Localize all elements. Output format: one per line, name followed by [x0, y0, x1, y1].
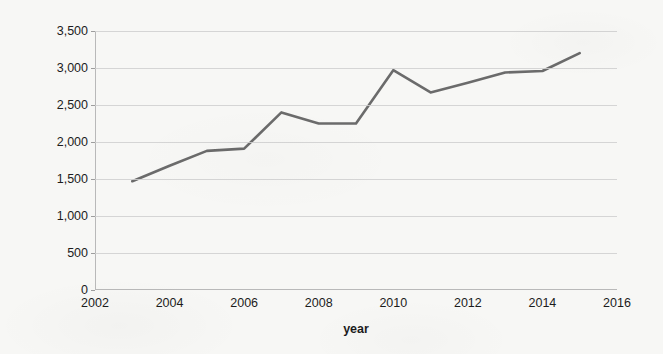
- x-axis-tick-label: 2004: [135, 296, 205, 310]
- y-axis-tick-label: 1,500: [42, 172, 88, 186]
- gridline: [95, 105, 617, 106]
- y-axis-tick-mark: [91, 216, 95, 217]
- x-axis-tick-label: 2010: [358, 296, 428, 310]
- y-axis-tick-label: 2,000: [42, 135, 88, 149]
- x-axis-tick-label: 2014: [507, 296, 577, 310]
- y-axis-tick-label: 3,000: [42, 61, 88, 75]
- line-chart: Cases where elderly people died alone 05…: [0, 0, 663, 354]
- x-axis-tick-label: 2006: [209, 296, 279, 310]
- gridline: [95, 31, 617, 32]
- y-axis-tick-mark: [91, 290, 95, 291]
- gridline: [95, 216, 617, 217]
- x-axis-title: year: [95, 322, 617, 336]
- y-axis-tick-mark: [91, 68, 95, 69]
- y-axis-tick-label: 0: [42, 283, 88, 297]
- gridline: [95, 142, 617, 143]
- gridline: [95, 253, 617, 254]
- y-axis-tick-mark: [91, 31, 95, 32]
- x-axis-tick-labels: 20022004200620082010201220142016: [0, 296, 663, 314]
- gridline: [95, 68, 617, 69]
- y-axis-tick-mark: [91, 253, 95, 254]
- gridline: [95, 179, 617, 180]
- y-axis-tick-mark: [91, 142, 95, 143]
- y-axis-tick-label: 1,000: [42, 209, 88, 223]
- x-axis-tick-label: 2016: [582, 296, 652, 310]
- y-axis-tick-mark: [91, 105, 95, 106]
- x-axis-tick-label: 2002: [60, 296, 130, 310]
- y-axis-tick-label: 500: [42, 246, 88, 260]
- x-axis-tick-label: 2008: [284, 296, 354, 310]
- y-axis-tick-mark: [91, 179, 95, 180]
- y-axis-tick-label: 3,500: [42, 24, 88, 38]
- x-axis-tick-label: 2012: [433, 296, 503, 310]
- y-axis-tick-label: 2,500: [42, 98, 88, 112]
- plot-area: [95, 31, 617, 290]
- data-series-line: [95, 31, 617, 290]
